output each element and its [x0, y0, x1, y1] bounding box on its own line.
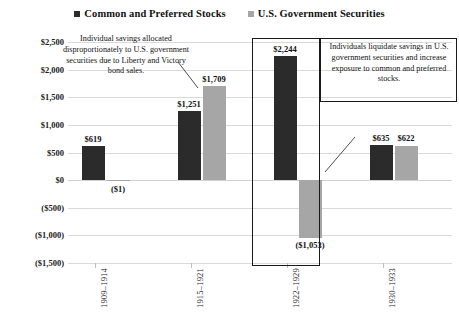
y-axis-tick-label: $2,000: [2, 65, 64, 75]
y-axis-tick-label: $2,500: [2, 37, 64, 47]
y-axis-tick-label: $0: [2, 175, 64, 185]
x-axis-label-1922-1929: 1922–1929: [291, 268, 301, 308]
legend-swatch-light-icon: [248, 11, 254, 17]
bar-1915-1921-common-and-preferred-stocks[interactable]: [178, 111, 201, 180]
bar-1930-1933-common-and-preferred-stocks[interactable]: [370, 145, 393, 180]
bar-1909-1914-us-government-securities[interactable]: [107, 180, 130, 181]
legend-label-common-and-preferred-stocks: Common and Preferred Stocks: [84, 8, 225, 19]
x-axis-tick: [383, 263, 384, 268]
x-axis-tick: [95, 263, 96, 268]
x-axis-label-1915-1921: 1915–1921: [195, 268, 205, 308]
y-axis-tick-label: $1,000: [2, 120, 64, 130]
bar-1930-1933-us-government-securities[interactable]: [395, 146, 418, 180]
legend-label-us-government-securities: U.S. Government Securities: [258, 8, 385, 19]
y-axis-tick-label: ($1,500): [2, 258, 64, 268]
legend-item-common-and-preferred-stocks[interactable]: Common and Preferred Stocks: [74, 8, 225, 19]
x-axis-label-1909-1914: 1909–1914: [99, 268, 109, 308]
bar-1915-1921-us-government-securities[interactable]: [203, 86, 226, 180]
legend-item-us-government-securities[interactable]: U.S. Government Securities: [248, 8, 385, 19]
chart-legend: Common and Preferred Stocks U.S. Governm…: [0, 8, 459, 19]
y-axis-tick-label: $1,500: [2, 92, 64, 102]
annotation-left-text: Individual savings allocated disproporti…: [60, 34, 192, 77]
bar-value-label: $622: [383, 133, 429, 143]
highlight-box-1922-1929: [252, 38, 320, 266]
bar-value-label: $619: [70, 134, 116, 144]
x-axis-tick: [191, 263, 192, 268]
x-axis-label-1930-1933: 1930–1933: [387, 268, 397, 308]
y-axis-tick-label: ($500): [2, 203, 64, 213]
y-axis-tick-label: $500: [2, 148, 64, 158]
annotation-right-text: Individuals liquidate savings in U.S. go…: [325, 42, 453, 85]
y-axis: $2,500 $2,000 $1,500 $1,000 $500 $0 ($50…: [0, 42, 64, 263]
chart-container: Common and Preferred Stocks U.S. Governm…: [0, 0, 459, 325]
bar-1909-1914-common-and-preferred-stocks[interactable]: [82, 146, 105, 180]
y-axis-tick-label: ($1,000): [2, 230, 64, 240]
bar-value-label: ($1): [95, 184, 141, 194]
legend-swatch-dark-icon: [74, 11, 80, 17]
bar-value-label: $1,709: [191, 74, 237, 84]
